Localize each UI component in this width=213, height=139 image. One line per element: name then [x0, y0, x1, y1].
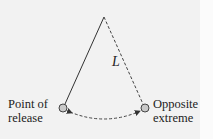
- point-of-release-label: Point of release: [8, 97, 48, 125]
- left-bob: [59, 104, 67, 112]
- string-solid: [65, 17, 104, 104]
- label-line: Point of: [8, 97, 48, 111]
- length-label: L: [112, 54, 120, 70]
- label-line: extreme: [153, 111, 198, 125]
- label-line: release: [8, 111, 48, 125]
- string-dashed: [104, 17, 143, 104]
- opposite-extreme-label: Opposite extreme: [153, 97, 198, 125]
- swing-arc-arrow: [70, 112, 138, 119]
- label-line: Opposite: [153, 97, 198, 111]
- right-bob: [141, 104, 149, 112]
